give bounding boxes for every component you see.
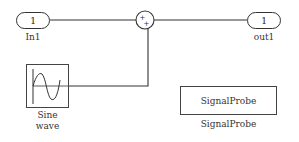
diagram-canvas: + + 1 In1 1 out1 Sine wave SignalProbe S… <box>0 0 299 142</box>
sum-block[interactable]: + + <box>136 11 154 29</box>
sum-sign-2: + <box>144 20 150 28</box>
signal-probe-text: SignalProbe <box>201 96 257 106</box>
outport-out1-number: 1 <box>261 16 267 26</box>
signal-probe-block[interactable]: SignalProbe <box>180 86 277 115</box>
outport-out1[interactable]: 1 <box>247 12 281 29</box>
line-sine-to-sum[interactable] <box>69 29 148 86</box>
sine-wave-block[interactable] <box>26 64 69 108</box>
sine-wave-label-line1: Sine <box>26 110 69 120</box>
inport-in1-label: In1 <box>16 32 50 42</box>
inport-in1-number: 1 <box>30 16 36 26</box>
inport-in1[interactable]: 1 <box>16 12 50 29</box>
sine-wave-label-line2: wave <box>26 121 69 131</box>
signal-probe-label: SignalProbe <box>180 119 277 129</box>
outport-out1-label: out1 <box>247 32 281 42</box>
